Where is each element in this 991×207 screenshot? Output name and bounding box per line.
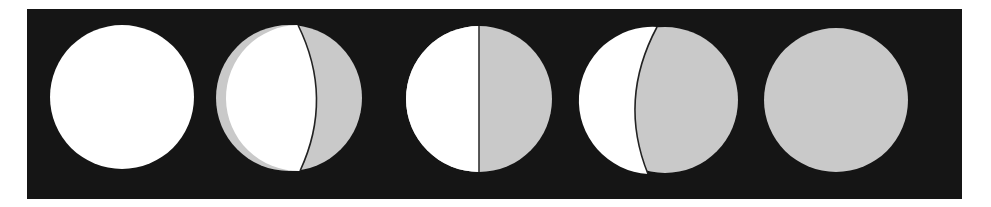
phase-1-full <box>50 25 194 169</box>
phase-4-crescent <box>579 27 738 174</box>
phase-3-half <box>406 26 552 172</box>
moon-phases-diagram <box>0 0 991 207</box>
phase-5-dark <box>764 28 908 172</box>
phase-2-gibbous <box>216 25 362 171</box>
